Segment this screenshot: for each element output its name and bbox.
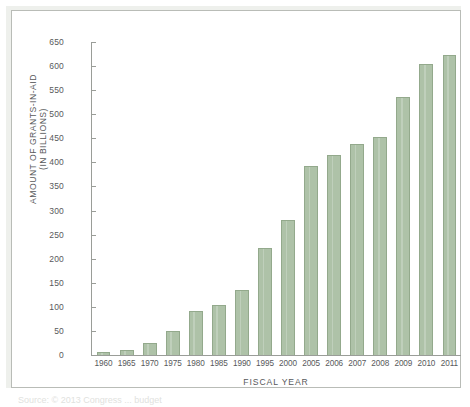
y-axis-tick-label: 200 xyxy=(24,255,64,264)
bar xyxy=(281,220,295,355)
y-axis-tick-label: 50 xyxy=(24,327,64,336)
x-axis-tick-label: 2009 xyxy=(392,359,415,368)
bar xyxy=(419,64,433,355)
x-axis-tick-label: 2008 xyxy=(369,359,392,368)
x-axis-tick-label: 1975 xyxy=(161,359,184,368)
y-axis-title-line1: AMOUNT OF GRANTS-IN-AID xyxy=(28,29,38,249)
y-axis-tick-label: 150 xyxy=(24,279,64,288)
bar xyxy=(304,166,318,355)
x-axis-tick-label: 1970 xyxy=(138,359,161,368)
x-axis-tick-label: 2000 xyxy=(277,359,300,368)
x-axis-tick-label: 2006 xyxy=(323,359,346,368)
y-axis-tick xyxy=(91,355,96,356)
caption-strip: Source: © 2013 Congress ... budget xyxy=(18,396,248,407)
y-axis-title: AMOUNT OF GRANTS-IN-AID (IN BILLIONS) xyxy=(28,29,48,249)
bar xyxy=(396,97,410,355)
x-axis-line xyxy=(91,355,461,356)
bar xyxy=(235,290,249,355)
x-axis-tick-label: 1980 xyxy=(184,359,207,368)
x-axis-tick-label: 1985 xyxy=(207,359,230,368)
bar xyxy=(258,248,272,355)
x-axis-tick-label: 2010 xyxy=(415,359,438,368)
x-axis-tick-label: 1960 xyxy=(92,359,115,368)
x-axis-tick-label: 2005 xyxy=(300,359,323,368)
bar xyxy=(327,155,341,355)
chart-frame: 050100150200250300350400450500550600650 … xyxy=(11,10,461,388)
bar xyxy=(350,144,364,355)
bar xyxy=(443,55,457,355)
y-axis-title-line2: (IN BILLIONS) xyxy=(38,29,48,249)
bars-layer xyxy=(92,42,461,355)
bar xyxy=(120,350,134,355)
bar xyxy=(97,352,111,355)
plot-area: 050100150200250300350400450500550600650 … xyxy=(12,11,460,387)
bar xyxy=(143,343,157,355)
bar xyxy=(373,137,387,355)
y-axis-tick-label: 100 xyxy=(24,303,64,312)
x-axis-tick-label: 1990 xyxy=(230,359,253,368)
bar xyxy=(212,305,226,355)
y-axis-tick-label: 0 xyxy=(24,351,64,360)
x-axis-tick-label: 1995 xyxy=(253,359,276,368)
x-axis-tick-label: 1965 xyxy=(115,359,138,368)
caption-text: Source: © 2013 Congress ... budget xyxy=(18,396,248,406)
bar xyxy=(189,311,203,355)
bar xyxy=(166,331,180,355)
x-axis-title: FISCAL YEAR xyxy=(91,377,461,387)
x-axis-tick-label: 2007 xyxy=(346,359,369,368)
x-axis-tick-label: 2011 xyxy=(438,359,461,368)
